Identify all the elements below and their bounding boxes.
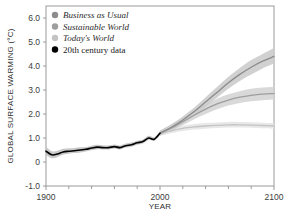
legend-item[interactable]: Business as Usual	[52, 10, 129, 20]
y-tick-label: 0	[35, 157, 40, 167]
x-axis-title: YEAR	[149, 202, 172, 211]
y-tick-label: 3.0	[28, 85, 40, 95]
uncertainty-band	[46, 131, 160, 158]
x-tick-label: 2000	[151, 192, 170, 202]
x-tick-label: 1900	[37, 192, 56, 202]
legend-item[interactable]: Sustainable World	[52, 22, 130, 32]
y-tick-label: 6.0	[28, 13, 40, 23]
y-tick-label: 5.0	[28, 37, 40, 47]
legend-label: 20th century data	[63, 45, 125, 55]
legend-marker-icon	[52, 46, 58, 52]
warming-projection-chart: -1.001.02.03.04.05.06.0190020002100YEARG…	[0, 0, 286, 214]
x-tick-label: 2100	[265, 192, 284, 202]
legend-label: Today's World	[63, 33, 115, 43]
legend-marker-icon	[52, 23, 58, 29]
legend-marker-icon	[52, 35, 58, 41]
legend-label: Sustainable World	[63, 22, 129, 32]
y-tick-label: -1.0	[25, 181, 40, 191]
series-line	[46, 133, 160, 155]
y-tick-label: 2.0	[28, 109, 40, 119]
y-axis-title: GLOBAL SURFACE WARMING (°C)	[6, 28, 15, 163]
legend-label: Business as Usual	[63, 10, 129, 20]
legend-item[interactable]: 20th century data	[52, 45, 126, 55]
y-tick-label: 1.0	[28, 133, 40, 143]
chart-container: -1.001.02.03.04.05.06.0190020002100YEARG…	[0, 0, 286, 214]
y-tick-label: 4.0	[28, 61, 40, 71]
legend-item[interactable]: Today's World	[52, 33, 115, 43]
legend-marker-icon	[52, 12, 58, 18]
